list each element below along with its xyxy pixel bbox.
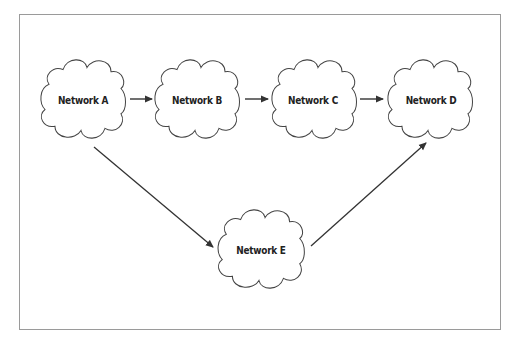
node-network-d xyxy=(388,60,473,138)
edge-a-to-e xyxy=(94,147,213,247)
cloud-icon xyxy=(218,210,304,288)
cloud-icon xyxy=(155,60,240,138)
node-network-c xyxy=(272,60,357,138)
network-diagram xyxy=(0,0,518,348)
cloud-icon xyxy=(41,60,126,138)
node-network-b xyxy=(155,60,240,138)
node-network-e xyxy=(218,210,304,288)
edge-e-to-d xyxy=(311,143,426,246)
node-network-a xyxy=(41,60,126,138)
cloud-icon xyxy=(388,60,473,138)
cloud-icon xyxy=(272,60,357,138)
